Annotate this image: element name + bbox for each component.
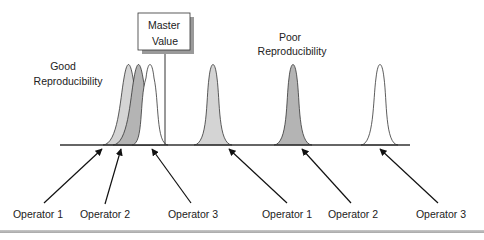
arrows [44,149,438,204]
good-curves [103,65,168,146]
good-label-line2: Reproducibility [34,75,104,87]
good-label-line1: Good [50,60,76,72]
label-good-operator-2: Operator 2 [80,208,130,220]
label-good-operator-3: Operator 3 [168,208,218,220]
arrow-good-operator-3 [152,149,191,203]
label-good-operator-1: Operator 1 [13,208,63,220]
master-value-line1: Master [148,19,181,31]
label-poor-operator-2: Operator 2 [328,208,378,220]
arrow-good-operator-1 [44,149,102,203]
label-poor-operator-3: Operator 3 [416,208,466,220]
poor-label-line2: Reproducibility [258,45,328,57]
curve-poor-operator-3 [361,65,398,146]
bottom-divider [0,230,484,233]
arrow-good-operator-2 [105,149,121,204]
label-poor-operator-1: Operator 1 [262,208,312,220]
master-value-line2: Value [152,35,178,47]
arrow-poor-operator-1 [229,149,287,203]
reproducibility-diagram: Master Value Good Reproducibility Poor R… [0,0,484,240]
curve-poor-operator-1 [194,65,232,146]
arrow-poor-operator-2 [302,149,351,203]
curve-poor-operator-2 [274,65,312,146]
arrow-poor-operator-3 [380,149,438,203]
poor-label-line1: Poor [279,31,302,43]
poor-curves [194,65,398,146]
